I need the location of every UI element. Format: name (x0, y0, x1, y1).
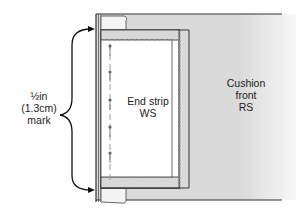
cushion-front-label-line1: Cushion (218, 77, 274, 89)
end-strip-label-line1: End strip (118, 95, 178, 107)
mark-label-line1: ½in (12, 90, 66, 102)
end-strip-label-line2: WS (118, 107, 178, 119)
sewing-diagram: ½in (1.3cm) mark End strip WS Cushion fr… (0, 0, 296, 216)
top-folded-tab (101, 16, 127, 30)
end-strip-label: End strip WS (118, 95, 178, 119)
cushion-front-label: Cushion front RS (218, 77, 274, 113)
mark-label: ½in (1.3cm) mark (12, 90, 66, 126)
bottom-folded-tab (101, 188, 126, 203)
mark-label-line3: mark (12, 114, 66, 126)
cushion-front-label-line2: front (218, 89, 274, 101)
cushion-front-label-line3: RS (218, 101, 274, 113)
mark-label-line2: (1.3cm) (12, 102, 66, 114)
